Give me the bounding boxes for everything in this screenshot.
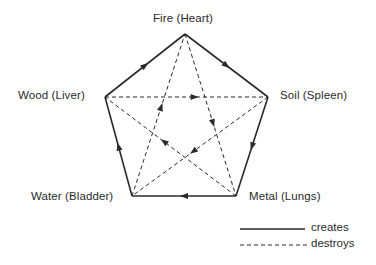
arrow-icon <box>209 118 217 127</box>
arrow-icon <box>157 102 165 111</box>
node-label-metal: Metal (Lungs) <box>249 190 321 202</box>
node-label-water: Water (Bladder) <box>31 190 113 202</box>
destroys-edge-water-to-fire <box>132 34 185 196</box>
legend-creates-label: creates <box>311 221 349 233</box>
arrow-icon <box>159 137 169 147</box>
arrow-icon <box>191 94 199 100</box>
arrow-icon <box>115 142 123 151</box>
arrow-icon <box>248 142 256 151</box>
node-label-soil: Soil (Spleen) <box>280 89 347 101</box>
arrow-icon <box>180 193 188 199</box>
creates-edges <box>105 34 268 199</box>
node-label-wood: Wood (Liver) <box>18 89 85 101</box>
destroys-edge-fire-to-metal <box>185 34 236 196</box>
legend <box>240 229 307 245</box>
destroys-edge-metal-to-wood <box>105 97 236 196</box>
legend-destroys-label: destroys <box>311 237 354 249</box>
destroys-edge-soil-to-water <box>132 97 268 196</box>
arrow-icon <box>188 147 198 157</box>
node-label-fire: Fire (Heart) <box>153 12 213 24</box>
